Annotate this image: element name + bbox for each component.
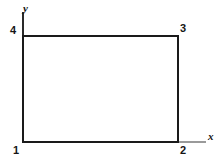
vertex-label-2: 2 bbox=[180, 145, 186, 156]
vertex-label-4: 4 bbox=[10, 25, 16, 36]
geometry-figure: 4 3 1 2 y x bbox=[0, 0, 222, 164]
x-axis-label: x bbox=[208, 131, 214, 142]
vertex-label-3: 3 bbox=[180, 23, 186, 34]
figure-canvas bbox=[0, 0, 222, 164]
y-axis-label: y bbox=[23, 3, 28, 14]
rectangle-shape bbox=[23, 36, 178, 142]
vertex-label-1: 1 bbox=[13, 145, 19, 156]
